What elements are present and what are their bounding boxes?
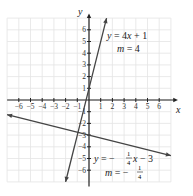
equation-2-frac-den: 4: [127, 159, 131, 166]
x-tick-label: −2: [62, 102, 70, 111]
slope-1-label: m = 4: [117, 43, 140, 54]
slope-2-frac-den: 4: [138, 173, 142, 180]
equation-2-tail: x − 3: [132, 153, 153, 164]
y-tick-label: 1: [82, 84, 86, 93]
equation-2-frac-num: 1: [127, 150, 130, 157]
y-tick-label: −6: [78, 166, 86, 175]
x-tick-label: 1: [99, 102, 103, 111]
y-axis-label: y: [77, 6, 83, 17]
y-tick-label: 2: [82, 72, 86, 81]
equation-1-label: y = 4x + 1: [106, 30, 147, 41]
y-tick-label: −3: [78, 131, 86, 140]
x-tick-label: −3: [50, 102, 58, 111]
y-axis-arrow-icon: [87, 13, 91, 18]
slope-2-label: m = −: [105, 167, 129, 178]
slope-2-frac-num: 1: [138, 164, 141, 171]
y-tick-label: −4: [78, 142, 86, 151]
x-tick-label: 5: [146, 102, 150, 111]
x-tick-label: 6: [157, 102, 161, 111]
coordinate-plane-chart: −6−5−4−3−2−1123456−6−5−4−3−2−1123456 x y…: [0, 0, 193, 196]
x-tick-label: −6: [15, 102, 23, 111]
x-tick-label: −4: [38, 102, 46, 111]
y-tick-label: 5: [82, 37, 86, 46]
y-tick-label: 3: [82, 60, 86, 69]
y-tick-label: 6: [82, 25, 86, 34]
x-axis-label: x: [175, 104, 181, 115]
x-axis-arrow-icon: [173, 98, 178, 102]
y-tick-label: 4: [82, 49, 86, 58]
x-tick-label: 3: [122, 102, 126, 111]
x-tick-label: −5: [27, 102, 35, 111]
y-tick-label: −5: [78, 154, 86, 163]
x-tick-label: 4: [134, 102, 138, 111]
equation-2-label: y = −: [93, 153, 115, 164]
x-tick-label: 2: [111, 102, 115, 111]
